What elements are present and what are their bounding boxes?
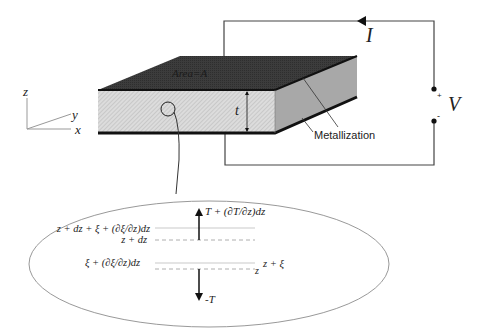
- detail-ellipse: [29, 201, 389, 327]
- minus-label: -: [437, 111, 440, 121]
- positive-terminal-icon: [431, 86, 436, 91]
- plus-label: +: [437, 91, 442, 100]
- up-arrow-icon: [195, 208, 203, 216]
- axis-x-label: x: [74, 122, 81, 137]
- lower-displaced-label: ξ + (∂ξ/∂z)dz: [85, 257, 140, 269]
- axes-triad: z y x: [22, 84, 81, 137]
- force-arrows: [195, 208, 203, 301]
- slab-front-face: [98, 90, 275, 133]
- axis-z-label: z: [22, 84, 28, 99]
- detail-guides: [155, 228, 255, 269]
- voltage-label: V: [448, 93, 463, 115]
- upper-position-label: z + dz: [120, 234, 147, 245]
- slab: [98, 56, 357, 133]
- negative-terminal-icon: [431, 118, 436, 123]
- lower-position-label: z: [254, 265, 259, 276]
- top-force-label: T + (∂T/∂z)dz: [205, 205, 266, 218]
- current-arrow-icon: [357, 16, 366, 26]
- piezo-slab-diagram: z y x I + - V Area=A t Metallization: [0, 0, 477, 334]
- area-label: Area=A: [171, 67, 207, 79]
- axis-y-label: y: [70, 107, 78, 122]
- lower-position-displaced-label: z + ξ: [262, 258, 284, 270]
- down-arrow-icon: [195, 293, 203, 301]
- metallization-label: Metallization: [314, 129, 375, 141]
- bottom-force-label: -T: [205, 293, 216, 305]
- current-label: I: [365, 24, 374, 46]
